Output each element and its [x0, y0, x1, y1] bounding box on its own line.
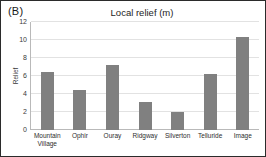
bar[interactable]	[106, 65, 119, 130]
x-tick-label: Image	[226, 132, 259, 148]
y-tick-label: 12	[19, 18, 27, 25]
x-tick-label: Silverton	[161, 132, 194, 148]
y-axis-label: Relief	[12, 68, 19, 85]
y-tick-label: 6	[23, 72, 27, 79]
y-tick-label: 4	[23, 90, 27, 97]
bar[interactable]	[204, 74, 217, 130]
bar-slot	[64, 22, 97, 130]
bar-slot	[31, 22, 64, 130]
x-axis-tick-labels: Mountain VillageOphirOurayRidgwaySilvert…	[31, 132, 259, 148]
plot-area: 121086420	[31, 22, 259, 130]
bar-slot	[194, 22, 227, 130]
y-tick-label: 0	[23, 126, 27, 133]
chart-title: Local relief (m)	[1, 7, 265, 18]
y-tick-label: 8	[23, 54, 27, 61]
x-tick-label: Ophir	[64, 132, 97, 148]
x-tick-label: Mountain Village	[31, 132, 64, 148]
x-tick-label: Telluride	[194, 132, 227, 148]
x-tick-label: Ridgway	[129, 132, 162, 148]
bar[interactable]	[139, 102, 152, 130]
bar[interactable]	[73, 90, 86, 131]
x-tick-label: Ouray	[96, 132, 129, 148]
y-tick-label: 10	[19, 36, 27, 43]
plot-area-wrapper: 121086420 Relief	[31, 22, 259, 130]
figure-panel: (B) Local relief (m) 121086420 Relief Mo…	[0, 0, 266, 157]
bar[interactable]	[236, 37, 249, 130]
y-tick-label: 2	[23, 108, 27, 115]
bar[interactable]	[41, 72, 54, 130]
bar-slot	[129, 22, 162, 130]
bar[interactable]	[171, 112, 184, 130]
bar-slot	[161, 22, 194, 130]
bar-slot	[226, 22, 259, 130]
bar-slot	[96, 22, 129, 130]
bar-series	[31, 22, 259, 130]
